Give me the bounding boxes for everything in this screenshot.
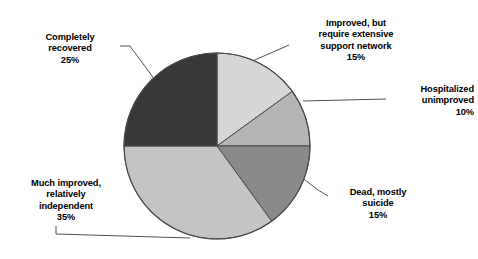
leader-line-completely-recovered — [120, 46, 155, 80]
pie-label-completely-recovered-text: Completely recovered — [45, 32, 94, 54]
pie-label-much-improved: Much improved, relatively independent 35… — [4, 166, 128, 236]
pie-label-much-improved-percent: 35% — [4, 212, 128, 224]
pie-label-hospitalized: Hospitalized unimproved 10% — [370, 72, 474, 130]
pie-label-dead: Dead, mostly suicide 15% — [320, 175, 436, 233]
pie-label-completely-recovered-percent: 25% — [22, 55, 118, 67]
pie-label-improved-support-text: Improved, but require extensive support … — [319, 18, 394, 51]
pie-label-hospitalized-text: Hospitalized unimproved — [420, 84, 474, 106]
pie-chart-figure: Improved, but require extensive support … — [0, 0, 478, 259]
pie-label-dead-percent: 15% — [320, 210, 436, 222]
pie-label-completely-recovered: Completely recovered 25% — [22, 20, 118, 78]
pie-slices — [124, 53, 310, 239]
pie-label-improved-support: Improved, but require extensive support … — [290, 6, 422, 76]
pie-label-hospitalized-percent: 10% — [370, 107, 474, 119]
pie-label-much-improved-text: Much improved, relatively independent — [31, 178, 101, 211]
pie-label-improved-support-percent: 15% — [290, 52, 422, 64]
pie-slice-completely-recovered[interactable] — [124, 53, 217, 146]
pie-label-dead-text: Dead, mostly suicide — [350, 187, 407, 209]
